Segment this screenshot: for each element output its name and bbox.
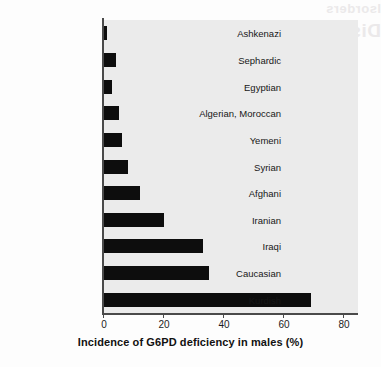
x-axis-line	[102, 313, 358, 315]
bar-egyptian	[104, 80, 112, 94]
category-label-sephardic: Sephardic	[238, 54, 281, 65]
x-tick-label-0: 0	[101, 319, 107, 330]
x-axis-title: Incidence of G6PD deficiency in males (%…	[0, 336, 381, 348]
category-label-ashkenazi: Ashkenazi	[237, 28, 281, 39]
x-tick-0	[103, 313, 104, 318]
x-tick-label-80: 80	[338, 319, 349, 330]
x-tick-20	[163, 313, 164, 318]
category-label-yemeni: Yemeni	[250, 134, 281, 145]
x-tick-label-60: 60	[278, 319, 289, 330]
bar-iraqi	[104, 239, 203, 253]
category-label-afghani: Afghani	[249, 188, 281, 199]
bar-syrian	[104, 160, 128, 174]
x-tick-80	[343, 313, 344, 318]
x-tick-label-40: 40	[218, 319, 229, 330]
bar-chart: 020406080 AshkenaziSephardicEgyptianAlge…	[0, 0, 381, 367]
bar-afghani	[104, 186, 140, 200]
bar-sephardic	[104, 53, 116, 67]
x-tick-60	[283, 313, 284, 318]
bar-ashkenazi	[104, 26, 107, 40]
x-tick-label-20: 20	[158, 319, 169, 330]
category-label-iraqi: Iraqi	[263, 241, 281, 252]
category-label-syrian: Syrian	[254, 161, 281, 172]
bar-caucasian	[104, 266, 209, 280]
bar-algerian-moroccan	[104, 106, 119, 120]
x-tick-40	[223, 313, 224, 318]
bar-yemeni	[104, 133, 122, 147]
category-label-kurdish: Kurdish	[249, 294, 281, 305]
category-label-algerian-moroccan: Algerian, Moroccan	[199, 108, 281, 119]
category-label-egyptian: Egyptian	[244, 81, 281, 92]
bar-iranian	[104, 213, 164, 227]
category-label-caucasian: Caucasian	[236, 268, 281, 279]
category-label-iranian: Iranian	[252, 214, 281, 225]
